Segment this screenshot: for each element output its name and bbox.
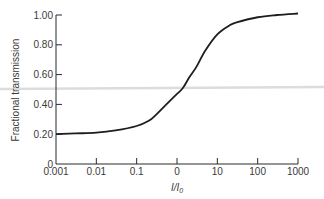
scan-artifact-line [0, 87, 324, 89]
x-tick-label: 1000 [287, 166, 310, 177]
x-tick-label: 0.001 [43, 166, 68, 177]
y-tick-label: 0.20 [34, 129, 54, 140]
x-tick-label: 0 [174, 166, 180, 177]
y-tick-label: 0.60 [34, 69, 54, 80]
x-tick-label: 100 [249, 166, 266, 177]
x-tick-label: 0.01 [87, 166, 107, 177]
x-tick-label: 10 [212, 166, 224, 177]
y-tick-label: 0.80 [34, 39, 54, 50]
x-axis: 0.0010.010.10101001000 [43, 158, 309, 177]
x-axis-title: I/I0 [171, 182, 183, 194]
transmission-curve [56, 14, 298, 135]
y-tick-label: 0.40 [34, 99, 54, 110]
x-axis-title-main: I/I [171, 182, 180, 193]
y-axis-title: Fractional transmission [10, 39, 21, 142]
x-tick-label: 0.1 [130, 166, 144, 177]
y-tick-label: 1.00 [34, 10, 54, 21]
x-axis-title-subscript: 0 [179, 187, 183, 194]
chart: 00.200.400.600.801.00 0.0010.010.1010100… [0, 0, 324, 199]
